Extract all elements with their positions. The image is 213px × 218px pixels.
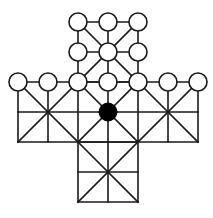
white-piece[interactable] — [9, 73, 27, 91]
white-piece[interactable] — [39, 73, 57, 91]
white-piece[interactable] — [129, 43, 147, 61]
white-piece[interactable] — [129, 13, 147, 31]
white-piece[interactable] — [99, 73, 117, 91]
white-piece[interactable] — [129, 73, 147, 91]
white-piece[interactable] — [99, 13, 117, 31]
white-piece[interactable] — [69, 13, 87, 31]
white-piece[interactable] — [69, 43, 87, 61]
white-piece[interactable] — [159, 73, 177, 91]
white-piece[interactable] — [99, 43, 117, 61]
game-board[interactable] — [0, 0, 213, 218]
white-piece[interactable] — [69, 73, 87, 91]
black-piece[interactable] — [99, 103, 117, 121]
white-piece[interactable] — [189, 73, 207, 91]
